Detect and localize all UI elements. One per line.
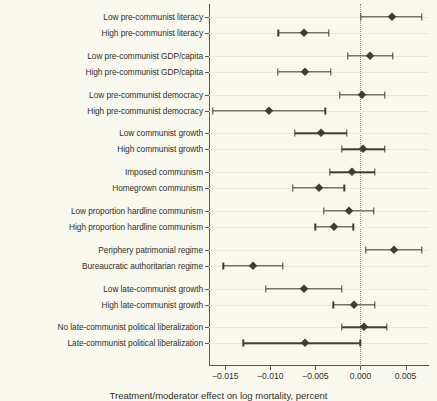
ci-upper-cap xyxy=(330,68,331,75)
category-label: Periphery patrimonial regime xyxy=(0,245,203,254)
y-axis-tick xyxy=(205,305,209,306)
ci-upper-cap xyxy=(384,146,385,153)
ci-lower-cap xyxy=(329,169,330,176)
ci-upper-cap xyxy=(346,130,347,137)
gridline xyxy=(209,327,429,328)
category-label: High pre-communist literacy xyxy=(0,28,203,37)
category-label: Low proportion hardline communism xyxy=(0,207,203,216)
point-estimate-marker xyxy=(330,222,339,231)
category-label: Low pre-communist literacy xyxy=(0,13,203,22)
category-label: Late-communist political liberalization xyxy=(0,339,203,348)
ci-lower-cap xyxy=(360,14,361,21)
ci-lower-cap xyxy=(294,130,295,137)
ci-lower-cap xyxy=(223,262,224,269)
point-estimate-marker xyxy=(299,28,308,37)
ci-upper-cap xyxy=(386,324,387,331)
y-axis-tick xyxy=(205,33,209,34)
y-axis-tick xyxy=(205,133,209,134)
y-axis-tick xyxy=(205,72,209,73)
y-axis-tick xyxy=(205,172,209,173)
ci-upper-cap xyxy=(282,262,283,269)
ci-lower-cap xyxy=(341,146,342,153)
y-axis-tick xyxy=(205,56,209,57)
ci-upper-cap xyxy=(360,340,361,347)
x-axis-spine xyxy=(209,365,429,366)
y-axis-tick xyxy=(205,266,209,267)
ci-lower-cap xyxy=(292,185,293,192)
point-estimate-marker xyxy=(300,67,309,76)
figure-caption: Treatment/moderator effect on log mortal… xyxy=(0,390,437,401)
point-estimate-marker xyxy=(314,184,323,193)
point-estimate-marker xyxy=(387,12,396,21)
y-axis-tick xyxy=(205,149,209,150)
forest-plot-figure: Low pre-communist literacyHigh pre-commu… xyxy=(0,0,437,401)
category-label: Bureaucratic authoritarian regime xyxy=(0,261,203,270)
ci-lower-cap xyxy=(339,91,340,98)
x-axis-tick xyxy=(360,366,361,370)
ci-lower-cap xyxy=(347,52,348,59)
category-label: Low late-communist growth xyxy=(0,284,203,293)
ci-upper-cap xyxy=(421,14,422,21)
category-label: Homegrown communism xyxy=(0,184,203,193)
y-axis-tick xyxy=(205,343,209,344)
x-axis-tick-label: −0.015 xyxy=(212,371,239,381)
zero-reference-line xyxy=(360,4,361,366)
ci-upper-cap xyxy=(341,285,342,292)
x-axis-tick-label: −0.005 xyxy=(302,371,329,381)
ci-lower-cap xyxy=(212,107,213,114)
point-estimate-marker xyxy=(300,339,309,348)
y-axis-tick xyxy=(205,227,209,228)
ci-lower-cap xyxy=(277,68,278,75)
gridline xyxy=(209,211,429,212)
point-estimate-marker xyxy=(350,300,359,309)
point-estimate-marker xyxy=(265,106,274,115)
point-estimate-marker xyxy=(344,206,353,215)
point-estimate-marker xyxy=(299,284,308,293)
y-axis-tick xyxy=(205,250,209,251)
gridline xyxy=(209,95,429,96)
ci-upper-cap xyxy=(373,208,374,215)
point-estimate-marker xyxy=(389,245,398,254)
ci-lower-cap xyxy=(323,208,324,215)
category-label: Low communist growth xyxy=(0,129,203,138)
y-axis-tick xyxy=(205,111,209,112)
category-label: Imposed communism xyxy=(0,168,203,177)
category-label: High pre-communist democracy xyxy=(0,106,203,115)
category-label: No late-communist political liberalizati… xyxy=(0,323,203,332)
gridline xyxy=(209,305,429,306)
plot-panel xyxy=(209,4,429,366)
point-estimate-marker xyxy=(316,129,325,138)
x-axis-tick xyxy=(315,366,316,370)
ci-lower-cap xyxy=(278,29,279,36)
ci-upper-cap xyxy=(392,52,393,59)
point-estimate-marker xyxy=(358,90,367,99)
category-label: Low pre-communist GDP/capita xyxy=(0,51,203,60)
ci-lower-cap xyxy=(341,324,342,331)
y-axis-tick xyxy=(205,95,209,96)
x-axis-tick-label: −0.010 xyxy=(257,371,284,381)
ci-lower-cap xyxy=(243,340,244,347)
ci-upper-cap xyxy=(344,185,345,192)
category-label: High pre-communist GDP/capita xyxy=(0,67,203,76)
ci-upper-cap xyxy=(325,107,326,114)
ci-lower-cap xyxy=(365,246,366,253)
ci-upper-cap xyxy=(421,246,422,253)
y-axis-tick xyxy=(205,188,209,189)
ci-upper-cap xyxy=(353,223,354,230)
ci-upper-cap xyxy=(374,301,375,308)
ci-upper-cap xyxy=(374,169,375,176)
x-axis-tick xyxy=(225,366,226,370)
category-label: High communist growth xyxy=(0,145,203,154)
y-axis-tick xyxy=(205,289,209,290)
gridline xyxy=(209,56,429,57)
x-axis-tick xyxy=(270,366,271,370)
x-axis-tick xyxy=(406,366,407,370)
ci-upper-cap xyxy=(384,91,385,98)
y-axis-tick xyxy=(205,327,209,328)
ci-lower-cap xyxy=(315,223,316,230)
point-estimate-marker xyxy=(249,261,258,270)
gridline xyxy=(209,149,429,150)
y-axis-spine xyxy=(209,4,210,366)
category-label: Low pre-communist democracy xyxy=(0,90,203,99)
y-axis-tick xyxy=(205,211,209,212)
